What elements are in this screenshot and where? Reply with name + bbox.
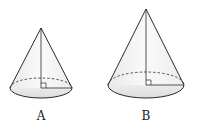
- cone-b-base-front: [108, 85, 184, 98]
- cone-a: A: [10, 28, 72, 123]
- cones-diagram: A B: [0, 0, 198, 126]
- cone-b: B: [108, 9, 184, 123]
- cone-a-base-front: [10, 88, 72, 98]
- cone-a-label: A: [36, 109, 46, 123]
- cone-b-label: B: [142, 109, 151, 123]
